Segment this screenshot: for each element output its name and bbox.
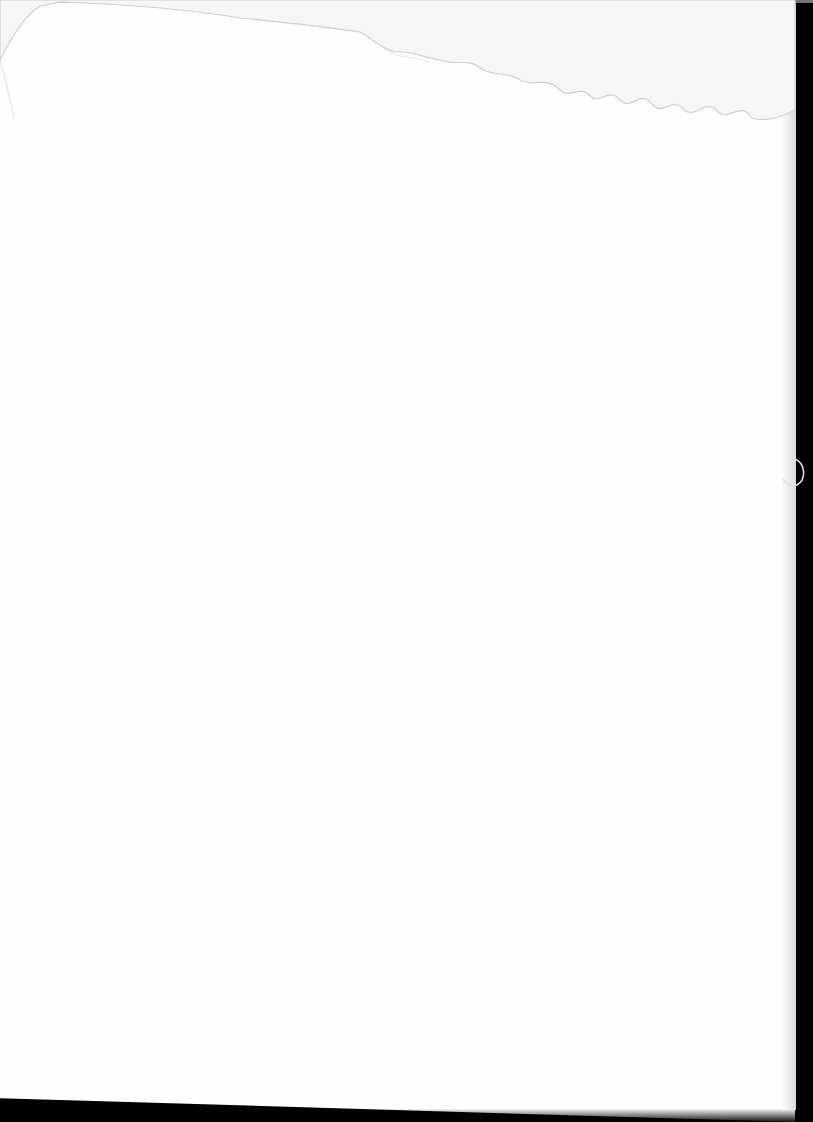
- paper-curl-icon: [781, 457, 807, 487]
- right-edge-shadow: [782, 0, 796, 1110]
- blank-paper-sheet: [0, 0, 795, 1110]
- page-bottom-edge: [0, 1088, 795, 1122]
- top-scan-edge: [0, 0, 813, 3]
- scanned-page-frame: [0, 0, 813, 1122]
